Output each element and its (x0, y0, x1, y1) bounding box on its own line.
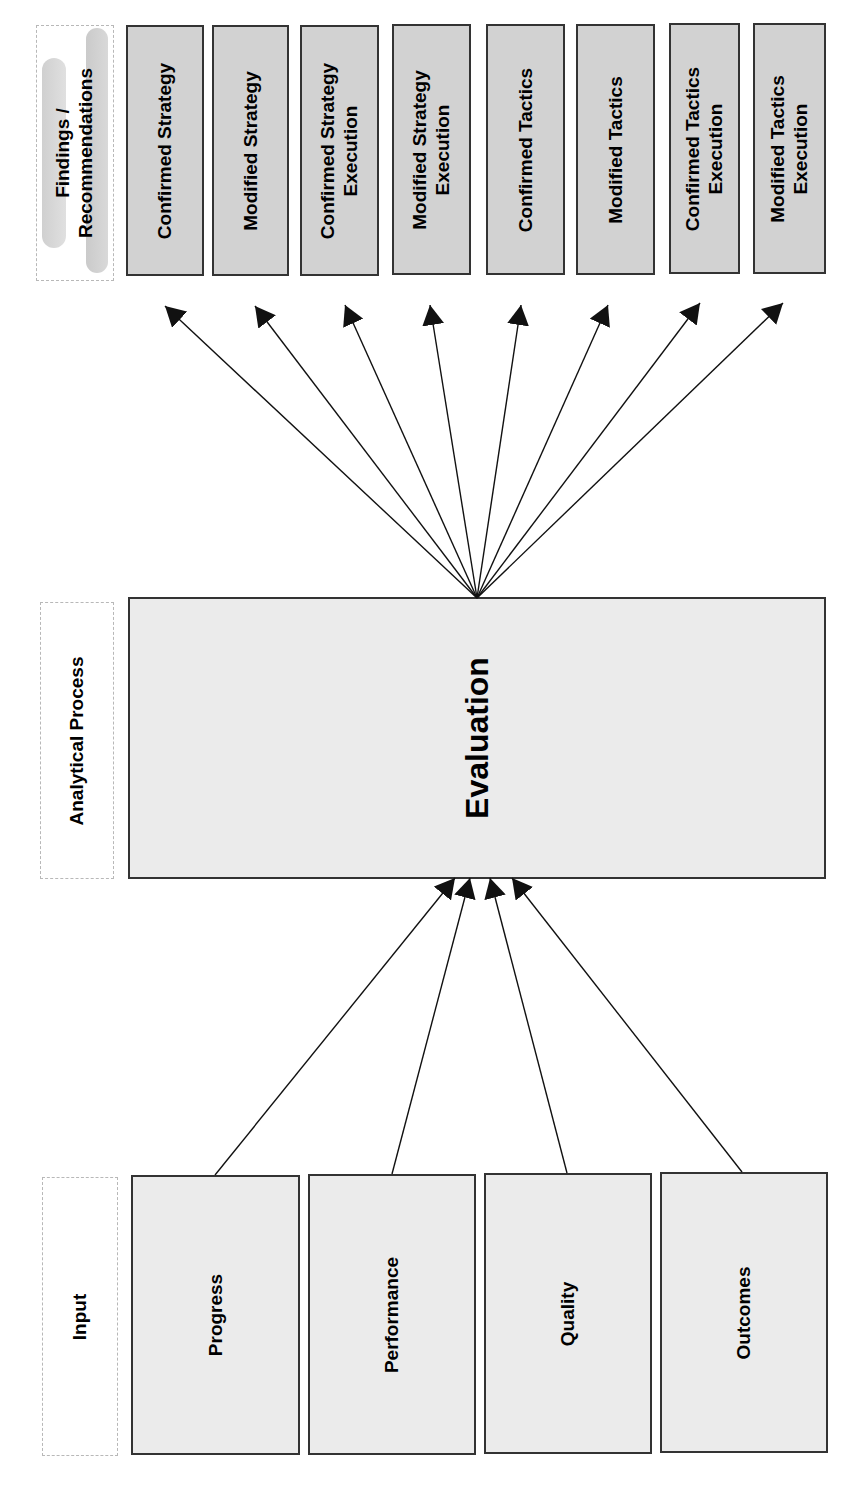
arrow-icon (215, 878, 455, 1175)
arrow-icon (512, 878, 742, 1172)
connector-arrows (0, 0, 860, 1493)
inputs-to-evaluation-arrows (215, 878, 742, 1175)
arrow-icon (165, 306, 477, 598)
arrow-icon (430, 305, 477, 598)
arrow-icon (490, 878, 567, 1173)
arrow-icon (255, 306, 477, 598)
arrow-icon (392, 878, 470, 1174)
evaluation-to-findings-arrows (165, 303, 783, 598)
arrow-icon (477, 303, 783, 598)
arrow-icon (477, 305, 521, 598)
